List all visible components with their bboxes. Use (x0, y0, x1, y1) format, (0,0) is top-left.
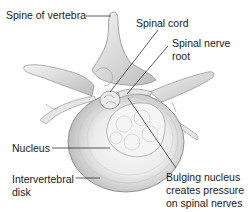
label-spinal-nerve-root-line2: root (172, 50, 190, 62)
label-nucleus: Nucleus (12, 142, 50, 154)
diagram-canvas: Spine of vertebra Spinal cord Spinal ner… (0, 0, 249, 212)
label-spine-of-vertebra: Spine of vertebra (6, 9, 86, 21)
left-transverse-process (24, 65, 94, 96)
label-bulging-line3: on spinal nerves (166, 197, 242, 209)
spinal-cord (100, 91, 120, 109)
label-intervertebral-disk-line2: disk (12, 186, 31, 198)
label-spinal-cord: Spinal cord (136, 17, 189, 29)
label-bulging-line1: Bulging nucleus (166, 171, 240, 183)
label-intervertebral-disk-line1: Intervertebral (12, 173, 74, 185)
label-spinal-nerve-root-line1: Spinal nerve (172, 37, 230, 49)
label-bulging-line2: creates pressure (166, 184, 244, 196)
right-transverse-process (150, 72, 214, 102)
